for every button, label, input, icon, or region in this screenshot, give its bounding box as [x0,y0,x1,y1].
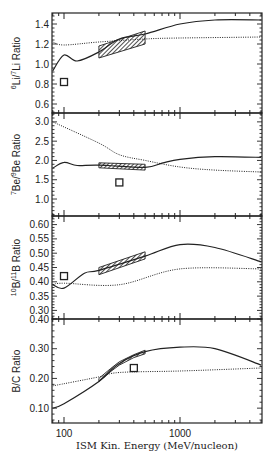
x-axis: 100 1000 ISM Kin. Energy (MeV/nucleon) [56,428,238,451]
plot-area [53,122,261,186]
y-axis-title: 6Li/7Li Ratio [10,36,22,89]
y-tick-label: 0.20 [30,373,50,384]
x-tick-label-1000: 1000 [169,428,192,439]
panel-b-c: 0.100.200.300.40B/C Ratio [11,314,262,424]
plot-area [53,20,261,86]
y-tick-label: 1.0 [35,194,49,205]
square-marker [116,179,123,186]
panel-be: 1.01.52.02.53.07Be/9Be Ratio [10,113,262,216]
y-axis-title: 10B/11B Ratio [10,238,22,296]
hatched-band [99,350,145,381]
y-tick-label: 0.60 [30,219,50,230]
solid-curve [53,347,261,409]
dotted-curve [53,37,261,45]
y-axis-title: 7Be/9Be Ratio [10,133,22,195]
y-tick-label: 0.55 [30,233,50,244]
y-axis-title: B/C Ratio [11,349,22,392]
y-tick-label: 0.30 [30,343,50,354]
plot-area [53,347,261,409]
y-tick-label: 1.5 [35,174,49,185]
dotted-curve [53,368,261,386]
y-tick-label: 0.45 [30,262,50,273]
y-tick-label: 0.8 [35,79,49,90]
y-tick-label: 2.5 [35,136,49,147]
square-marker [61,273,68,280]
square-marker [61,79,68,86]
chart-figure: 0.60.81.01.21.46Li/7Li Ratio1.01.52.02.5… [0,0,270,451]
panels: 0.60.81.01.21.46Li/7Li Ratio1.01.52.02.5… [10,13,262,423]
panel-b: 0.300.350.400.450.500.550.6010B/11B Rati… [10,216,262,319]
y-tick-label: 1.2 [35,39,49,50]
x-tick-label-100: 100 [56,428,73,439]
y-tick-label: 0.6 [35,99,49,110]
y-tick-label: 0.50 [30,248,50,259]
square-marker [130,365,137,372]
y-tick-label: 1.0 [35,59,49,70]
x-axis-title: ISM Kin. Energy (MeV/nucleon) [76,440,238,451]
plot-area [53,244,261,288]
solid-curve [53,157,261,169]
dotted-curve [53,268,261,286]
solid-curve [53,244,261,288]
panel-frame [52,216,262,319]
y-tick-label: 0.35 [30,291,50,302]
panel-frame [52,13,262,113]
y-tick-label: 3.0 [35,116,49,127]
y-tick-label: 1.4 [35,19,49,30]
y-tick-label: 0.40 [30,314,50,325]
y-tick-label: 0.40 [30,276,50,287]
y-tick-label: 0.10 [30,403,50,414]
y-tick-label: 2.0 [35,155,49,166]
solid-curve [53,20,261,71]
panel-li: 0.60.81.01.21.46Li/7Li Ratio [10,13,262,113]
